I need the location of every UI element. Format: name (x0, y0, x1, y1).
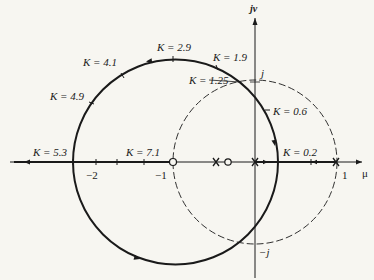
vertical-axis-label: jν (250, 4, 257, 14)
horizontal-axis-label: μ (362, 168, 368, 179)
gain-label-0-2: K = 0.2 (283, 147, 317, 158)
gain-label-1-9: K = 1.9 (213, 52, 247, 63)
gain-label-1-25: K = 1.25 (189, 75, 229, 86)
imag-label-j: j (261, 68, 264, 79)
gain-label-0-6: K = 0.6 (273, 106, 307, 117)
gain-label-2-9: K = 2.9 (157, 42, 191, 53)
zero-icon (225, 159, 231, 165)
imag-label-minus-j: −j (259, 247, 269, 258)
imaginary-axis (253, 18, 258, 278)
gain-label-5-3: K = 5.3 (33, 147, 67, 158)
tick-label-minus-1: −1 (155, 170, 167, 181)
locus-ticks (73, 56, 270, 165)
zero-icon (170, 159, 177, 166)
gain-label-4-9: K = 4.9 (50, 91, 84, 102)
tick-label-1: 1 (342, 170, 348, 181)
tick-label-minus-2: −2 (86, 170, 98, 181)
gain-label-7-1: K = 7.1 (126, 147, 160, 158)
gain-label-4-1: K = 4.1 (83, 57, 117, 68)
real-axis (10, 159, 362, 165)
